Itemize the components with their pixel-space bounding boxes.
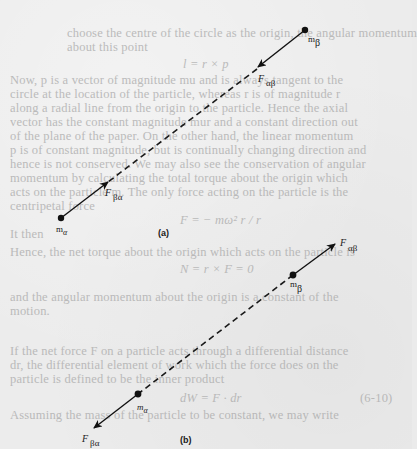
caption-b: (b) <box>180 435 192 445</box>
panel-b: Fαβ mβ mα Fβα (b) <box>81 237 358 448</box>
dashed-line-of-action <box>108 69 257 182</box>
caption-a: (a) <box>158 228 169 238</box>
force-arrow-f-beta-alpha <box>61 182 108 218</box>
label-f-beta-alpha: Fβα <box>81 433 100 448</box>
panel-a: mβ Fαβ Fβα mα (a) <box>56 27 320 238</box>
label-m-alpha: mα <box>56 224 68 237</box>
label-m-beta: mβ <box>308 34 320 48</box>
label-f-beta-alpha: Fβα <box>104 187 123 202</box>
force-arrow-f-alpha-beta <box>293 244 335 275</box>
label-m-beta: mβ <box>290 279 302 294</box>
label-f-alpha-beta: Fαβ <box>339 237 358 253</box>
dashed-line-of-action <box>138 275 293 394</box>
label-m-alpha: mα <box>137 402 149 415</box>
label-f-alpha-beta: Fαβ <box>257 73 276 88</box>
force-arrow-f-alpha-beta <box>258 30 305 67</box>
force-arrow-f-beta-alpha <box>94 394 138 428</box>
